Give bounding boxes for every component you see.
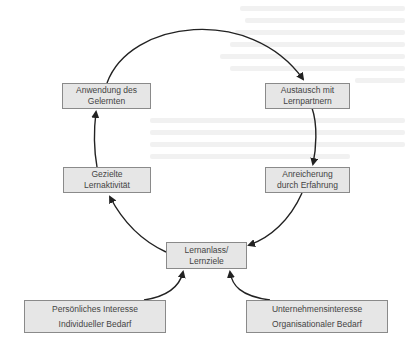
node-label-line2: Gelernten: [88, 96, 125, 107]
node-label-line1: Persönliches Interesse: [52, 302, 138, 317]
node-label-line1: Austausch mit: [281, 85, 334, 96]
node-label-line2: Lernaktivität: [84, 180, 130, 191]
node-label-line1: Anwendung des: [76, 85, 137, 96]
node-label-line1: Lernanlass/: [185, 245, 229, 256]
node-label-line2: Lernziele: [189, 256, 224, 267]
node-anreicherung-durch-erfahrung: Anreicherung durch Erfahrung: [265, 167, 350, 193]
node-label-line2: durch Erfahrung: [277, 180, 338, 191]
node-label-line2: Individueller Bedarf: [59, 317, 132, 332]
node-label-line1: Anreicherung: [282, 169, 333, 180]
node-austausch-mit-lernpartnern: Austausch mit Lernpartnern: [265, 83, 350, 109]
arrow-anreicherung-to-lernanlass: [249, 193, 302, 245]
node-unternehmensinteresse: Unternehmensinteresse Organisationaler B…: [246, 300, 388, 333]
arrow-persoenlich-to-lernanlass: [144, 272, 183, 300]
node-lernanlass-lernziele: Lernanlass/ Lernziele: [166, 242, 247, 269]
arrow-austausch-to-anreicherung: [312, 108, 316, 164]
arrow-lernaktivitaet-to-anwendung: [95, 112, 97, 167]
node-label-line1: Gezielte: [91, 169, 122, 180]
node-persoenliches-interesse: Persönliches Interesse Individueller Bed…: [24, 300, 166, 333]
node-label-line1: Unternehmensinteresse: [272, 302, 362, 317]
arrow-anwendung-to-austausch: [107, 29, 303, 83]
node-anwendung-des-gelernten: Anwendung des Gelernten: [62, 83, 151, 109]
node-label-line2: Organisationaler Bedarf: [272, 317, 362, 332]
node-gezielte-lernaktivitaet: Gezielte Lernaktivität: [63, 167, 151, 193]
arrow-lernanlass-to-lernaktivitaet: [110, 197, 166, 252]
arrow-unternehmen-to-lernanlass: [230, 272, 270, 300]
node-label-line2: Lernpartnern: [283, 96, 332, 107]
